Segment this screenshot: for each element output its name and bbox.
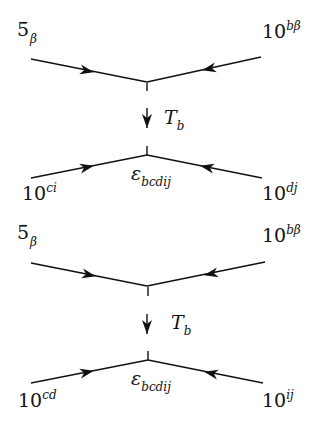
label-vertex: εbcdij xyxy=(131,162,171,189)
label-mediator: Tb xyxy=(164,106,184,133)
arrow-right-icon xyxy=(81,269,97,282)
label-top-left: 5̄β xyxy=(17,221,37,249)
label-vertex: εbcdij xyxy=(131,367,171,394)
label-top-left: 5̄β xyxy=(17,18,37,46)
label-top-right: 10bβ xyxy=(262,19,301,42)
arrow-right-icon xyxy=(79,366,95,379)
label-bottom-right: 10ij xyxy=(262,388,294,411)
diagram-1: 5̄β 10bβ Tb εbcdij 10ci 10dj xyxy=(17,18,301,204)
label-top-right: 10bβ xyxy=(262,223,301,246)
feynman-diagrams: 5̄β 10bβ Tb εbcdij 10ci 10dj 5̄β 10bβ Tb… xyxy=(0,0,314,423)
line-top-right xyxy=(147,262,265,286)
label-bottom-left: 10ci xyxy=(22,181,57,204)
arrow-left-icon xyxy=(199,161,215,174)
label-bottom-right: 10dj xyxy=(262,181,298,204)
arrow-right-icon xyxy=(79,161,95,174)
diagram-2: 5̄β 10bβ Tb εbcdij 10cd 10ij xyxy=(17,221,301,411)
arrow-left-icon xyxy=(201,62,217,75)
label-mediator: Tb xyxy=(171,311,191,338)
label-bottom-left: 10cd xyxy=(18,388,57,411)
